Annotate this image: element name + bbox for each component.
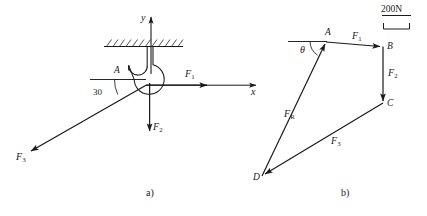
angle-30-value: 30 bbox=[93, 87, 102, 97]
mechanics-figure: y x A 30 F1 F2 F3 200N A B C D θ F1 F2 F… bbox=[0, 0, 427, 216]
force-F2-label-a: F2 bbox=[153, 122, 163, 134]
force-F3-arrow-b bbox=[265, 103, 383, 174]
scale-bar-label: 200N bbox=[381, 5, 402, 15]
angle-theta-label: θ bbox=[300, 45, 305, 55]
diagram-a-group bbox=[31, 17, 256, 151]
force-F1-subscript-a: 1 bbox=[191, 73, 195, 80]
force-F1-label-b: F1 bbox=[352, 31, 362, 43]
vertex-label-B: B bbox=[387, 42, 393, 52]
figure-canvas bbox=[0, 0, 427, 216]
x-axis-label: x bbox=[251, 87, 255, 97]
y-axis-label: y bbox=[141, 13, 145, 23]
force-F2-subscript-a: 2 bbox=[159, 126, 163, 133]
force-F3-subscript-a: 3 bbox=[22, 156, 26, 163]
angle-30-label: 30 bbox=[93, 88, 102, 97]
point-label-A-diagram-a: A bbox=[114, 66, 120, 76]
force-F2-subscript-b: 2 bbox=[394, 72, 398, 79]
caption-b: b) bbox=[341, 188, 349, 198]
angle-theta-arc bbox=[310, 42, 318, 56]
force-F3-subscript-b: 3 bbox=[337, 140, 341, 147]
force-FR-label-b: FR bbox=[284, 109, 295, 121]
force-F1-subscript-b: 1 bbox=[358, 35, 362, 42]
force-F3-label-b: F3 bbox=[331, 136, 341, 148]
ceiling-support bbox=[104, 40, 183, 47]
caption-a: a) bbox=[146, 188, 154, 198]
diagram-b-group bbox=[262, 16, 411, 177]
force-F3-arrow-a bbox=[31, 85, 146, 151]
vertex-label-C: C bbox=[387, 99, 393, 109]
force-F3-label-a: F3 bbox=[16, 152, 26, 164]
vertex-label-A: A bbox=[325, 28, 331, 38]
angle-30-arc bbox=[114, 80, 117, 95]
force-FR-subscript-b: R bbox=[290, 113, 295, 120]
force-F1-label-a: F1 bbox=[185, 69, 195, 81]
scale-bar bbox=[382, 16, 411, 30]
force-F2-label-b: F2 bbox=[388, 68, 398, 80]
vertex-label-D: D bbox=[253, 173, 260, 183]
hook-shape bbox=[129, 47, 165, 95]
